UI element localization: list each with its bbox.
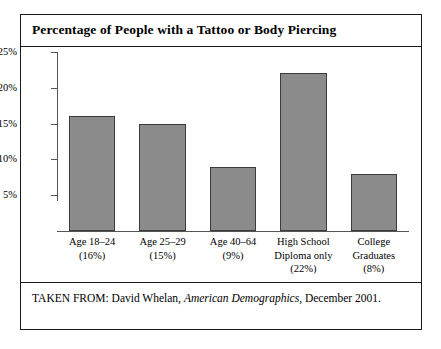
source-prefix: TAKEN FROM: David Whelan, xyxy=(32,292,181,304)
x-axis-label-line: (22%) xyxy=(268,262,338,276)
x-axis-label-line: (9%) xyxy=(198,249,268,263)
bar xyxy=(69,116,115,231)
y-tick: 15% xyxy=(21,124,57,125)
title-bar: Percentage of People with a Tattoo or Bo… xyxy=(21,15,421,47)
x-axis-label-line: Graduates xyxy=(339,249,409,263)
bar-slot xyxy=(210,47,256,231)
page-title: Percentage of People with a Tattoo or Bo… xyxy=(32,22,336,38)
y-tick: 20% xyxy=(21,88,57,89)
bar xyxy=(210,167,256,231)
bar-slot xyxy=(280,47,326,231)
y-tick-label: 20% xyxy=(0,83,17,94)
x-axis-label: Age 25–29(15%) xyxy=(127,235,197,262)
y-tick-label: 25% xyxy=(0,47,17,58)
plot-area: 5%10%15%20%25% Age 18–24(16%)Age 25–29(1… xyxy=(21,47,421,283)
bar xyxy=(280,73,326,231)
x-axis-label: Age 18–24(16%) xyxy=(57,235,127,262)
x-axis-label-line: Age 18–24 xyxy=(57,235,127,249)
y-tick: 10% xyxy=(21,159,57,160)
x-axis-label: High SchoolDiploma only(22%) xyxy=(268,235,338,276)
x-axis-label-line: (16%) xyxy=(57,249,127,263)
x-axis-label-line: (15%) xyxy=(127,249,197,263)
source-bar: TAKEN FROM: David Whelan, American Demog… xyxy=(21,282,421,329)
y-tick: 5% xyxy=(21,195,57,196)
x-axis-label-line: Age 25–29 xyxy=(127,235,197,249)
y-tick-label: 15% xyxy=(0,118,17,129)
x-axis-labels: Age 18–24(16%)Age 25–29(15%)Age 40–64(9%… xyxy=(57,235,409,283)
x-axis-label-line: High School xyxy=(268,235,338,249)
bar-slot xyxy=(139,47,185,231)
source-publication: American Demographics xyxy=(184,292,299,304)
source-suffix: , December 2001. xyxy=(299,292,381,304)
x-axis-label-line: Age 40–64 xyxy=(198,235,268,249)
bar xyxy=(351,174,397,231)
bar-slot xyxy=(351,47,397,231)
x-axis-label: Age 40–64(9%) xyxy=(198,235,268,262)
x-axis-label-line: (8%) xyxy=(339,262,409,276)
chart-figure: Percentage of People with a Tattoo or Bo… xyxy=(20,14,422,330)
bar-series xyxy=(57,47,409,231)
x-axis-label: CollegeGraduates(8%) xyxy=(339,235,409,276)
bar-slot xyxy=(69,47,115,231)
y-tick-label: 10% xyxy=(0,154,17,165)
x-axis-line xyxy=(57,231,409,232)
bar xyxy=(139,124,185,231)
y-tick-label: 5% xyxy=(3,190,17,201)
x-axis-label-line: Diploma only xyxy=(268,249,338,263)
x-axis-label-line: College xyxy=(339,235,409,249)
source-note: TAKEN FROM: David Whelan, American Demog… xyxy=(32,290,409,306)
y-tick: 25% xyxy=(21,52,57,53)
